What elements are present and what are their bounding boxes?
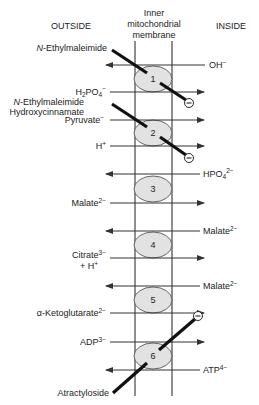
label-citrate: Citrate3− [72, 249, 106, 260]
label-inhibitor-hydroxycinnamate: Hydroxycinnamate [9, 107, 84, 117]
carrier-number: 1 [150, 74, 155, 84]
header-inside: INSIDE [216, 21, 246, 31]
label-h-plus: H+ [96, 140, 107, 151]
label-malate-4: Malate2− [203, 225, 238, 236]
label-oh: OH− [209, 59, 227, 70]
label-hpo4: HPO42− [203, 167, 234, 180]
header-outside: OUTSIDE [51, 21, 91, 31]
carrier-4: 4 [134, 232, 172, 258]
label-atp: ATP4− [203, 364, 227, 375]
carrier-number: 4 [150, 240, 155, 250]
header-membrane-line2: mitochondrial [127, 19, 181, 29]
carrier-5: 5 [134, 287, 172, 313]
header-membrane-line3: membrane [132, 30, 175, 40]
label-citrate-h: + H+ [80, 260, 98, 271]
mitochondrial-transport-diagram: OUTSIDE Inner mitochondrial membrane INS… [0, 0, 259, 405]
carrier-number: 5 [150, 295, 155, 305]
label-inhibitor-atractyloside: Atractyloside [57, 388, 109, 398]
label-adp: ADP3− [80, 336, 106, 347]
carrier-3: 3 [134, 176, 172, 202]
carrier-number: 3 [150, 184, 155, 194]
label-ketoglutarate: α-Ketoglutarate2− [37, 307, 106, 318]
header-membrane-line1: Inner [144, 8, 165, 18]
carrier-6: 6 [134, 343, 172, 369]
label-malate-3: Malate2− [72, 197, 107, 208]
carrier-number: 2 [150, 128, 155, 138]
label-inhibitor-nem-1: N-Ethylmaleimide [36, 43, 107, 53]
label-inhibitor-nem-2: N-Ethylmaleimide [13, 97, 84, 107]
carrier-number: 6 [150, 351, 155, 361]
label-malate-5: Malate2− [203, 280, 238, 291]
